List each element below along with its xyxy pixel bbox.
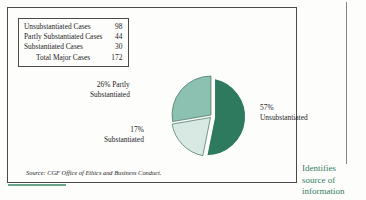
pie-chart-svg: [168, 72, 260, 164]
annotation-source-callout: Identifies source of information: [302, 163, 366, 198]
pie-label-partly-line1: 26% Partly: [90, 80, 130, 90]
legend-value: 30: [102, 42, 122, 52]
pie-label-unsubstantiated: 57% Unsubstantiated: [260, 103, 308, 123]
pie-label-partly-substantiated: 26% Partly Substantiated: [90, 80, 130, 100]
pie-slice-partly-substantiated: [172, 76, 211, 122]
legend-value: 44: [102, 32, 122, 42]
table-row: Unsubstantiated Cases 98: [24, 22, 122, 32]
legend-value: 98: [102, 22, 122, 32]
legend-label: Substantiated Cases: [24, 42, 102, 52]
legend-label: Unsubstantiated Cases: [24, 22, 102, 32]
legend-label-total: Total Major Cases: [24, 53, 102, 63]
annotation-line2: source of: [302, 175, 366, 187]
annotation-leader-line: [346, 2, 347, 164]
bottom-green-rule: [8, 184, 66, 186]
table-row: Partly Substantiated Cases 44: [24, 32, 122, 42]
table-row: Substantiated Cases 30: [24, 42, 122, 52]
legend-table: Unsubstantiated Cases 98 Partly Substant…: [24, 22, 122, 63]
pie-chart: [168, 72, 260, 164]
legend-label: Partly Substantiated Cases: [24, 32, 102, 42]
source-note: Source: CGF Office of Ethics and Busines…: [26, 169, 161, 176]
pie-label-substantiated: 17% Substantiated: [104, 125, 144, 145]
annotation-line1: Identifies: [302, 163, 366, 175]
pie-label-partly-line2: Substantiated: [90, 90, 130, 100]
chart-frame: Unsubstantiated Cases 98 Partly Substant…: [7, 7, 297, 183]
legend-value-total: 172: [102, 53, 122, 63]
pie-label-unsub-line1: 57%: [260, 103, 308, 113]
table-row-total: Total Major Cases 172: [24, 53, 122, 63]
figure-root: Unsubstantiated Cases 98 Partly Substant…: [0, 0, 366, 200]
pie-label-sub-line1: 17%: [104, 125, 144, 135]
annotation-line3: information: [302, 186, 366, 198]
pie-label-sub-line2: Substantiated: [104, 135, 144, 145]
pie-slice-unsubstantiated: [207, 79, 246, 156]
legend-box: Unsubstantiated Cases 98 Partly Substant…: [18, 18, 129, 67]
pie-label-unsub-line2: Unsubstantiated: [260, 113, 308, 123]
pie-slice-substantiated: [172, 118, 210, 156]
